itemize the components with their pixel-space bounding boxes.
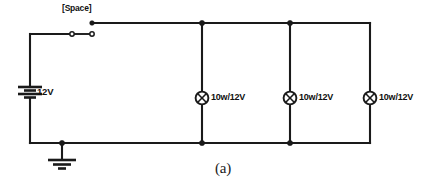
lamp-2-bottom-node [287,140,292,145]
lamp-1-icon [196,92,209,105]
lamp-2-rating-label: 10w/12V [299,92,333,102]
battery-voltage-label: 12V [37,86,53,97]
lamp-branch-1 [196,20,209,145]
push-switch-symbol[interactable] [30,21,94,37]
lamp-branch-2 [284,20,297,145]
switch-space-label: [Space] [62,3,91,13]
lamp-branch-3 [364,92,377,105]
lamp-3-rating-label: 10w/12V [379,92,413,102]
figure-caption: (a) [0,160,446,177]
circuit-wires [30,23,370,143]
switch-contact-left-icon [70,32,74,36]
lamp-2-icon [284,92,297,105]
lamp-1-bottom-node [199,140,204,145]
switch-top-terminal-node [90,21,95,26]
lamp-3-icon [364,92,377,105]
switch-contact-right-icon [90,32,94,36]
circuit-diagram-figure: [Space] 12V 10w/12V 10w/12V 10w/12V (a) [0,0,446,189]
lamp-1-rating-label: 10w/12V [211,92,245,102]
